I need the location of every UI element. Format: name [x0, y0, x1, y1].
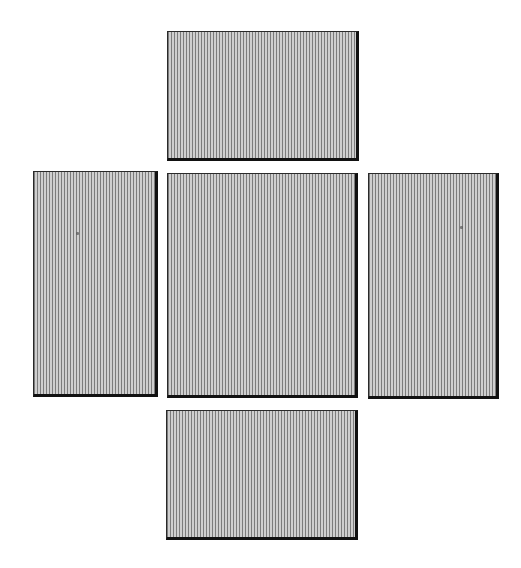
panel-top	[167, 31, 359, 161]
mark-left-panel	[76, 232, 79, 235]
panel-right	[368, 173, 499, 399]
panel-bottom	[166, 410, 358, 540]
box-net-diagram	[0, 0, 521, 568]
panel-left	[33, 171, 158, 397]
panel-center	[167, 173, 358, 398]
mark-right-panel	[460, 226, 463, 229]
